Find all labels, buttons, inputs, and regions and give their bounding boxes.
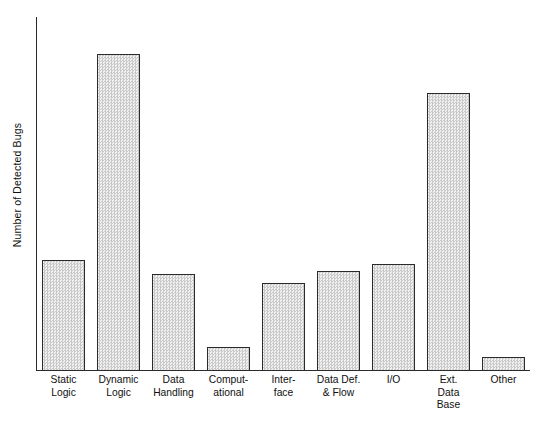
x-axis-tick-label: Comput- ational xyxy=(201,374,256,399)
x-axis-tick-label: Data Handling xyxy=(146,374,201,399)
x-axis-tick-label: I/O xyxy=(366,374,421,387)
y-axis-label-text: Number of Detected Bugs xyxy=(11,123,23,247)
x-axis-tick-label: Inter- face xyxy=(256,374,311,399)
x-axis-tick-label: Dynamic Logic xyxy=(91,374,146,399)
x-axis-tick-label: Data Def. & Flow xyxy=(311,374,366,399)
bar xyxy=(152,274,195,371)
x-axis-tick-labels: Static LogicDynamic LogicData HandlingCo… xyxy=(36,374,530,426)
x-axis-tick-label: Ext. Data Base xyxy=(421,374,476,412)
bar xyxy=(427,93,470,371)
bar xyxy=(372,264,415,371)
bar xyxy=(317,271,360,371)
plot-area xyxy=(36,17,530,371)
y-axis-label: Number of Detected Bugs xyxy=(0,0,34,370)
x-axis-tick-label: Static Logic xyxy=(36,374,91,399)
bar xyxy=(262,283,305,371)
bar-chart: Number of Detected Bugs Static LogicDyna… xyxy=(0,0,541,426)
bar xyxy=(42,260,85,371)
bar xyxy=(97,54,140,371)
bar xyxy=(207,347,250,371)
bar xyxy=(482,357,525,371)
x-axis-tick-label: Other xyxy=(476,374,531,387)
